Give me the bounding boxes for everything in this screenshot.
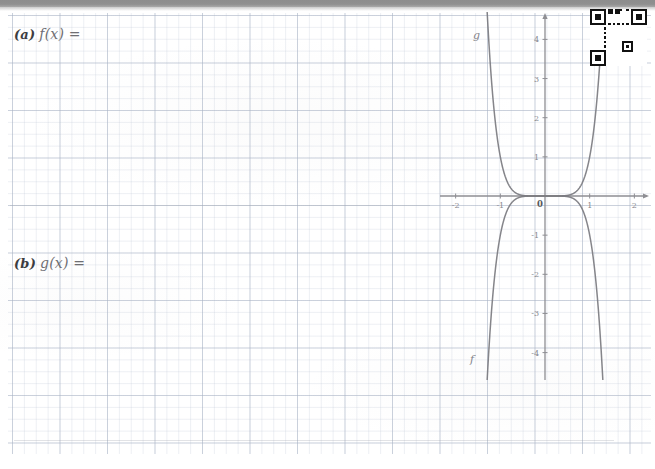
problem-a-expression: f(x) =: [39, 26, 80, 42]
function-graph: -2-1012-4-3-2-11234 g f: [440, 12, 650, 380]
svg-text:-3: -3: [531, 309, 539, 318]
scan-edge-shadow: [0, 7, 655, 11]
problem-b-expression: g(x) =: [40, 255, 85, 271]
svg-text:-1: -1: [531, 231, 539, 240]
scanned-worksheet-page: (a)f(x) = (b)g(x) = -2-1012-4-3-2-11234 …: [0, 0, 655, 469]
problem-b-label: (b): [14, 256, 36, 271]
qr-code-svg: [590, 9, 647, 66]
svg-text:2: 2: [632, 201, 637, 210]
svg-text:1: 1: [534, 153, 539, 162]
svg-text:-4: -4: [531, 349, 539, 358]
graph-svg: -2-1012-4-3-2-11234: [440, 12, 650, 380]
svg-text:-1: -1: [496, 201, 504, 210]
svg-text:3: 3: [534, 75, 539, 84]
svg-text:-2: -2: [452, 201, 460, 210]
svg-text:2: 2: [534, 114, 539, 123]
curve-label-f: f: [470, 353, 474, 366]
problem-a-label: (a): [14, 27, 35, 42]
svg-text:4: 4: [534, 35, 539, 44]
problem-a: (a)f(x) =: [14, 26, 81, 43]
scan-edge-bar: [0, 0, 655, 7]
page-bottom-margin: [0, 455, 655, 469]
curve-label-g: g: [473, 29, 480, 42]
qr-code: [590, 9, 647, 66]
svg-text:0: 0: [537, 199, 543, 209]
svg-text:-2: -2: [531, 270, 539, 279]
problem-b: (b)g(x) =: [14, 255, 85, 272]
svg-text:1: 1: [587, 201, 592, 210]
